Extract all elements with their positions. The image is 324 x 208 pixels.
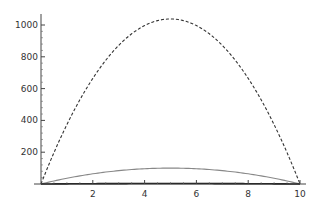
x-tick-label: 2	[90, 189, 96, 199]
x-tick-label: 4	[142, 189, 148, 199]
axes: 2004006008001000246810	[15, 14, 306, 199]
x-tick-label: 10	[294, 189, 306, 199]
series-dashed	[41, 19, 300, 184]
y-tick-label: 600	[21, 84, 38, 94]
x-tick-label: 8	[245, 189, 251, 199]
plot-area	[41, 19, 300, 184]
y-tick-label: 1000	[15, 20, 38, 30]
y-tick-label: 400	[21, 115, 38, 125]
y-tick-label: 200	[21, 147, 38, 157]
y-tick-label: 800	[21, 52, 38, 62]
series-gray	[41, 168, 300, 184]
x-tick-label: 6	[194, 189, 200, 199]
line-chart: 2004006008001000246810	[0, 0, 324, 208]
